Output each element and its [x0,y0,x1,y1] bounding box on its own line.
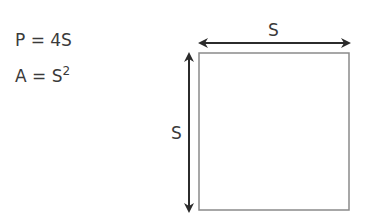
top-side-label: S [268,20,279,40]
square-shape [199,53,349,210]
square-diagram [0,0,380,224]
left-side-label: S [171,123,182,143]
